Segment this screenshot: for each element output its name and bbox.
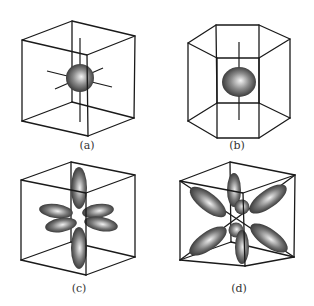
- ellipsoid-b: [222, 67, 256, 97]
- lobe-c-bottom: [71, 227, 87, 269]
- lobe-d-lower-right: [246, 218, 292, 258]
- panel-c: [21, 162, 135, 275]
- panel-d: [180, 162, 295, 266]
- panel-b-label: (b): [229, 139, 245, 152]
- lobe-d-lower-left: [185, 221, 231, 261]
- figure-canvas: [0, 0, 314, 306]
- lobe-c-top: [71, 167, 87, 209]
- lobe-d-bottom: [235, 230, 249, 264]
- lobe-c-left-lower: [44, 215, 78, 234]
- lobe-d-upper-center: [235, 200, 250, 215]
- lobes-d: [185, 173, 292, 264]
- panel-a-label: (a): [79, 139, 94, 152]
- sphere-a: [66, 64, 94, 92]
- panel-b: [188, 25, 290, 138]
- lobe-d-upper-left: [185, 181, 231, 222]
- figure: (a) (b) (c) (d): [0, 0, 314, 306]
- panel-a: [22, 21, 135, 136]
- lobe-c-left-upper: [38, 202, 74, 221]
- panel-c-label: (c): [72, 282, 87, 295]
- panel-d-label: (d): [231, 282, 247, 295]
- lobes-c: [38, 167, 119, 269]
